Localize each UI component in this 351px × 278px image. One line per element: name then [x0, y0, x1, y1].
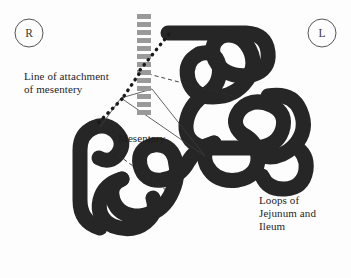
- orientation-marker-left: L: [308, 19, 336, 47]
- label-mesentery: Mesentery: [118, 132, 165, 145]
- orientation-markers-layer: R L: [0, 0, 351, 278]
- right-marker-label: R: [25, 27, 33, 39]
- anatomy-diagram-canvas: R L Line of attachment of mesentery Mese…: [0, 0, 351, 278]
- left-marker-label: L: [318, 27, 325, 39]
- label-line-of-attachment-of-mesentery: Line of attachment of mesentery: [24, 70, 134, 96]
- label-loops-of-jejunum-and-ileum: Loops of Jejunum and Ileum: [259, 194, 345, 233]
- orientation-marker-right: R: [15, 19, 43, 47]
